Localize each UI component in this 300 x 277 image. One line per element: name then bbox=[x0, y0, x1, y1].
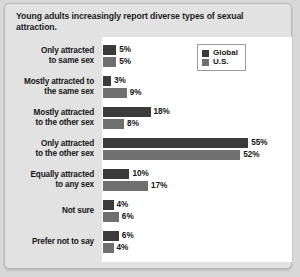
bar-value-label: 8% bbox=[127, 119, 139, 129]
bar-value-label: 3% bbox=[114, 76, 126, 86]
category-label: Only attractedto the other sex bbox=[8, 139, 94, 158]
bar-value-label: 4% bbox=[117, 243, 129, 253]
bar-global-1 bbox=[103, 76, 111, 86]
bar-value-label: 5% bbox=[119, 57, 131, 67]
bar-global-4 bbox=[103, 169, 129, 179]
bar-value-label: 9% bbox=[130, 88, 142, 98]
bar-us-4 bbox=[103, 181, 148, 191]
bar-value-label: 4% bbox=[117, 200, 129, 210]
category-label: Equally attractedto any sex bbox=[8, 170, 94, 189]
bar-global-2 bbox=[103, 107, 151, 117]
bar-value-label: 5% bbox=[119, 45, 131, 55]
legend-label-global: Global bbox=[213, 49, 238, 57]
bar-value-label: 55% bbox=[251, 138, 267, 148]
legend-swatch-global bbox=[202, 50, 209, 57]
bar-value-label: 17% bbox=[151, 181, 167, 191]
legend-item-global: Global bbox=[202, 49, 238, 57]
bar-global-3 bbox=[103, 138, 248, 148]
bar-value-label: 52% bbox=[243, 150, 259, 160]
chart-legend: Global U.S. bbox=[197, 44, 246, 71]
bar-global-0 bbox=[103, 45, 116, 55]
legend-swatch-us bbox=[202, 59, 209, 66]
bar-value-label: 6% bbox=[122, 212, 134, 222]
bar-value-label: 18% bbox=[154, 107, 170, 117]
category-label: Prefer not to say bbox=[8, 237, 94, 247]
category-label: Not sure bbox=[8, 206, 94, 216]
bar-us-0 bbox=[103, 57, 116, 67]
bar-us-6 bbox=[103, 243, 114, 253]
legend-label-us: U.S. bbox=[213, 58, 229, 66]
bar-value-label: 6% bbox=[122, 231, 134, 241]
chart-plot-area: Only attractedto same sex5%5%Mostly attr… bbox=[0, 0, 300, 277]
category-label: Mostly attracted tothe same sex bbox=[8, 77, 94, 96]
legend-item-us: U.S. bbox=[202, 58, 238, 66]
bar-us-5 bbox=[103, 212, 119, 222]
category-label: Mostly attractedto the other sex bbox=[8, 108, 94, 127]
bar-us-1 bbox=[103, 88, 127, 98]
category-label: Only attractedto same sex bbox=[8, 46, 94, 65]
bar-us-3 bbox=[103, 150, 240, 160]
bar-global-5 bbox=[103, 200, 114, 210]
bar-value-label: 10% bbox=[132, 169, 148, 179]
bar-global-6 bbox=[103, 231, 119, 241]
bar-us-2 bbox=[103, 119, 124, 129]
